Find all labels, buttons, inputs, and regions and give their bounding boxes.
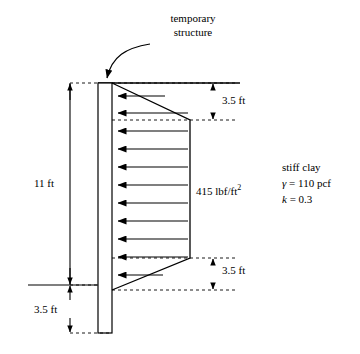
pressure-arrows xyxy=(118,96,188,275)
retaining-wall xyxy=(98,83,112,333)
figure-canvas: temporary structure 3.5 ft 415 lbf/ft2 3… xyxy=(0,0,360,354)
dimension-helper-lines xyxy=(70,83,238,333)
label-bottom-segment: 3.5 ft xyxy=(222,264,245,277)
gamma-value: = 110 pcf xyxy=(289,177,331,189)
callout-leader xyxy=(107,44,150,78)
soil-k: k = 0.3 xyxy=(282,193,331,206)
gamma-symbol: γ xyxy=(282,177,286,189)
label-pressure-value: 415 lbf/ft xyxy=(196,185,237,197)
label-embedment: 3.5 ft xyxy=(34,303,57,316)
label-top-segment: 3.5 ft xyxy=(222,94,245,107)
label-pressure-exponent: 2 xyxy=(237,183,241,192)
callout-label-line2: structure xyxy=(150,26,236,39)
pressure-diagram-outline xyxy=(112,83,190,290)
soil-name: stiff clay xyxy=(282,161,331,174)
k-value: = 0.3 xyxy=(290,193,313,205)
callout-label-line1: temporary xyxy=(150,12,236,25)
k-symbol: k xyxy=(282,193,287,205)
label-pressure: 415 lbf/ft2 xyxy=(196,181,241,198)
soil-properties-box: stiff clay γ = 110 pcf k = 0.3 xyxy=(282,161,331,206)
soil-gamma: γ = 110 pcf xyxy=(282,177,331,190)
label-wall-height: 11 ft xyxy=(34,177,54,190)
